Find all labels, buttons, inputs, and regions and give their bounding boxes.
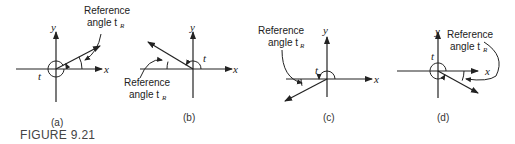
- reference-angle-arc: [167, 62, 168, 69]
- svg-text:R: R: [299, 42, 305, 50]
- x-axis-label: x: [232, 63, 238, 75]
- y-axis-label: y: [434, 25, 440, 37]
- panel-b: x y t Reference angle t R (b): [124, 21, 238, 123]
- panel-d: x y t Reference angle t R (d): [397, 25, 499, 123]
- svg-text:R: R: [161, 94, 167, 102]
- y-axis-label: y: [189, 21, 195, 33]
- angle-t-label: t: [431, 50, 435, 62]
- panel-c: x y t Reference angle t R (c): [258, 24, 379, 123]
- terminal-side: [285, 79, 327, 101]
- svg-text:angle t: angle t: [268, 37, 298, 48]
- reference-label: Reference: [258, 25, 305, 36]
- panel-label: (d): [437, 112, 449, 123]
- x-axis-label: x: [103, 63, 109, 75]
- x-axis-label: x: [484, 65, 490, 77]
- svg-text:R: R: [482, 46, 488, 54]
- svg-text:angle t: angle t: [129, 89, 159, 100]
- panel-a: x y t Reference angle t R (a): [16, 5, 131, 128]
- panel-label: (c): [323, 112, 335, 123]
- y-axis-label: y: [322, 24, 328, 36]
- svg-text:angle t: angle t: [87, 17, 117, 28]
- terminal-side: [148, 42, 193, 69]
- angle-t-label: t: [203, 52, 207, 64]
- panel-label: (a): [51, 117, 63, 128]
- svg-text:angle t: angle t: [450, 41, 480, 52]
- x-axis-label: x: [373, 73, 379, 85]
- svg-text:R: R: [119, 22, 125, 30]
- reference-label: Reference: [84, 5, 131, 16]
- terminal-side: [438, 71, 478, 93]
- reference-angle-arc: [462, 71, 464, 81]
- figure-9-21: x y t Reference angle t R (a) x y t Refe…: [0, 0, 515, 144]
- angle-t-label: t: [38, 70, 42, 82]
- y-axis-label: y: [50, 21, 56, 33]
- figure-caption: FIGURE 9.21: [20, 128, 95, 142]
- reference-pointer: [282, 50, 302, 83]
- reference-label: Reference: [124, 77, 171, 88]
- reference-label: Reference: [447, 29, 494, 40]
- reference-angle-arc: [79, 57, 82, 69]
- panel-label: (b): [183, 112, 195, 123]
- terminal-side: [56, 46, 100, 69]
- angle-t-label: t: [315, 64, 319, 76]
